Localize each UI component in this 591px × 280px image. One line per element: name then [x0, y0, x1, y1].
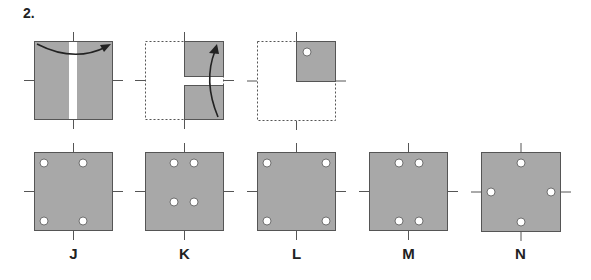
option-label-l: L — [257, 245, 336, 262]
option-j[interactable] — [34, 152, 113, 231]
fold-step-3 — [257, 41, 336, 120]
option-l[interactable] — [257, 152, 336, 231]
option-k[interactable] — [145, 152, 224, 231]
option-label-j: J — [34, 245, 113, 262]
option-n[interactable] — [481, 152, 560, 231]
fold-step-2 — [145, 41, 224, 120]
question-number: 2. — [23, 5, 35, 21]
option-label-k: K — [145, 245, 224, 262]
fold-step-1 — [34, 41, 113, 120]
option-label-n: N — [481, 245, 560, 262]
option-m[interactable] — [369, 152, 448, 231]
option-label-m: M — [369, 245, 448, 262]
hole-icon — [303, 48, 311, 56]
